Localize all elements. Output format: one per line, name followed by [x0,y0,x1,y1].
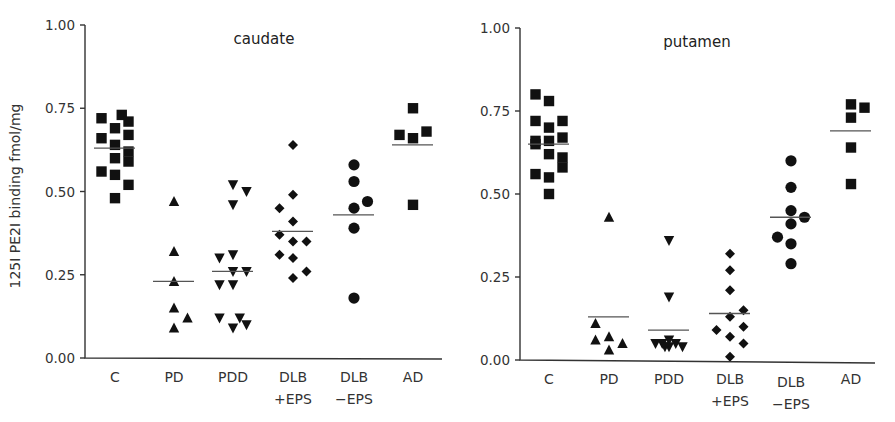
square-marker [408,200,418,210]
y-tick-label: 0.50 [45,184,75,200]
triangle-up-marker [169,196,179,206]
panel-title: caudate [234,30,295,48]
y-axis-label: 125I PE2I binding fmol/mg [7,104,23,289]
square-marker [394,130,404,140]
triangle-down-marker [228,280,238,290]
triangle-down-marker [228,180,238,190]
x-category-label: PDD [654,371,684,387]
square-marker [96,133,106,143]
y-tick-label: 0.25 [480,269,510,285]
circle-marker [348,292,359,303]
x-axis-categories: CPDPDDDLB+EPSDLB−EPSAD [110,369,423,407]
square-marker [557,132,567,142]
x-category-label: PD [599,371,618,387]
y-axis-ticks: 0.000.250.500.751.00 [45,17,85,366]
x-category-label: AD [403,369,423,385]
triangle-down-marker [214,280,224,290]
triangle-up-marker [590,335,600,345]
circle-marker [785,205,796,216]
diamond-marker [275,203,285,213]
square-marker [123,156,133,166]
putamen-panel: putamen 0.000.250.500.751.00 CPDPDDDLB+E… [480,20,875,412]
square-marker [110,193,120,203]
triangle-down-marker [228,200,238,210]
data-points [96,103,431,333]
square-marker [859,102,869,112]
triangle-up-marker [169,303,179,313]
square-marker [123,130,133,140]
triangle-down-marker [677,342,687,352]
y-tick-label: 0.00 [45,350,75,366]
triangle-down-marker [228,324,238,334]
triangle-down-marker [228,250,238,260]
diamond-marker [739,322,749,332]
x-category-label: DLB−EPS [335,369,373,407]
caudate-panel: caudate 125I PE2I binding fmol/mg 0.000.… [7,17,442,407]
triangle-up-marker [169,323,179,333]
square-marker [846,112,856,122]
y-axis-ticks: 0.000.250.500.751.00 [480,20,520,368]
square-marker [110,153,120,163]
triangle-up-marker [604,331,614,341]
diamond-marker [288,273,298,283]
square-marker [846,179,856,189]
triangle-up-marker [617,338,627,348]
x-category-label: PDD [218,369,248,385]
diamond-marker [275,250,285,260]
x-category-label: C [544,371,554,387]
x-category-label: AD [841,371,861,387]
diamond-marker [725,249,735,259]
square-marker [544,122,554,132]
triangle-down-marker [214,314,224,324]
square-marker [530,169,540,179]
y-tick-label: 0.75 [45,100,75,116]
square-marker [544,96,554,106]
circle-marker [785,258,796,269]
square-marker [110,123,120,133]
y-tick-label: 1.00 [45,17,75,33]
triangle-down-marker [241,320,251,330]
circle-marker [348,176,359,187]
x-axis-categories: CPDPDDDLB+EPSDLB−EPSAD [544,371,861,412]
square-marker [530,116,540,126]
y-tick-label: 0.00 [480,352,510,368]
diamond-marker [288,253,298,263]
triangle-down-marker [241,187,251,197]
square-marker [421,126,431,136]
y-tick-label: 0.25 [45,267,75,283]
square-marker [96,113,106,123]
square-marker [408,103,418,113]
x-category-label: C [110,369,120,385]
square-marker [110,170,120,180]
square-marker [846,99,856,109]
circle-marker [785,218,796,229]
circle-marker [348,223,359,234]
circle-marker [362,196,373,207]
y-tick-label: 1.00 [480,20,510,36]
triangle-up-marker [604,212,614,222]
square-marker [557,116,567,126]
square-marker [123,180,133,190]
square-marker [96,166,106,176]
diamond-marker [288,216,298,226]
triangle-down-marker [214,254,224,264]
square-marker [557,152,567,162]
figure: caudate 125I PE2I binding fmol/mg 0.000.… [0,0,895,422]
circle-marker [772,232,783,243]
diamond-marker [288,190,298,200]
triangle-up-marker [590,318,600,328]
circle-marker [785,182,796,193]
circle-marker [785,238,796,249]
x-category-label: PD [164,369,183,385]
triangle-up-marker [169,246,179,256]
circle-marker [348,159,359,170]
circle-marker [348,203,359,214]
square-marker [544,149,554,159]
square-marker [408,133,418,143]
square-marker [544,189,554,199]
diamond-marker [288,236,298,246]
triangle-down-marker [664,236,674,246]
diamond-marker [302,236,312,246]
axes [520,28,875,363]
mean-lines [94,145,433,282]
